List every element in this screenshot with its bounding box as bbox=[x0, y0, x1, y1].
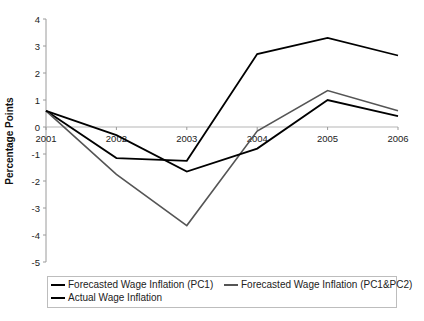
legend-item-pc1: Forecasted Wage Inflation (PC1) bbox=[51, 279, 213, 290]
y-tick-label: -2 bbox=[32, 176, 40, 187]
series-line bbox=[46, 38, 398, 161]
y-tick-label: 0 bbox=[35, 122, 40, 133]
line-chart: 43210-1-2-3-4-5 200120022003200420052006… bbox=[0, 0, 424, 321]
legend-label-actual: Actual Wage Inflation bbox=[68, 292, 162, 303]
series-line bbox=[46, 91, 398, 226]
series-lines bbox=[46, 38, 398, 226]
legend-swatch-pc1 bbox=[51, 284, 65, 286]
x-tick-label: 2003 bbox=[176, 133, 197, 144]
legend-label-pc1-pc2: Forecasted Wage Inflation (PC1&PC2) bbox=[241, 279, 412, 290]
y-tick-label: 1 bbox=[35, 95, 40, 106]
x-tick-label: 2001 bbox=[35, 133, 56, 144]
x-tick-label: 2005 bbox=[317, 133, 338, 144]
y-axis-label: Percentage Points bbox=[4, 97, 15, 185]
y-tick-label: 2 bbox=[35, 68, 40, 79]
legend-swatch-actual bbox=[51, 297, 65, 299]
legend-swatch-pc1-pc2 bbox=[224, 284, 238, 286]
legend-item-actual: Actual Wage Inflation bbox=[51, 292, 162, 303]
y-tick-label: -1 bbox=[32, 149, 40, 160]
y-tick-label: -4 bbox=[32, 230, 40, 241]
y-tick-label: 3 bbox=[35, 41, 40, 52]
x-tick-label: 2006 bbox=[387, 133, 408, 144]
y-tick-label: -3 bbox=[32, 203, 40, 214]
legend-item-pc1-pc2: Forecasted Wage Inflation (PC1&PC2) bbox=[224, 279, 412, 290]
y-tick-label: 4 bbox=[35, 14, 40, 25]
y-tick-label: -5 bbox=[32, 257, 40, 268]
legend-label-pc1: Forecasted Wage Inflation (PC1) bbox=[68, 279, 213, 290]
legend: Forecasted Wage Inflation (PC1) Forecast… bbox=[47, 276, 397, 308]
series-line bbox=[46, 100, 398, 172]
